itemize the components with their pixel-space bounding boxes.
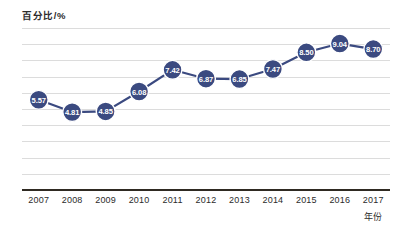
x-axis-tick-label: 2014 [262, 195, 283, 205]
x-axis-tick-label: 2017 [363, 195, 384, 205]
x-axis-tick-label: 2016 [329, 195, 350, 205]
line-chart: 百分比/% 2007200820092010201120122013201420… [0, 0, 406, 236]
data-point-marker[interactable] [96, 102, 115, 121]
x-axis-tick-label: 2011 [162, 195, 182, 205]
x-axis-tick-label: 2013 [229, 195, 250, 205]
data-point-marker[interactable] [163, 60, 182, 79]
data-point-marker[interactable] [29, 90, 48, 109]
data-point-marker[interactable] [130, 82, 149, 101]
data-point-marker[interactable] [364, 40, 383, 59]
x-axis-title: 年份 [364, 210, 382, 223]
x-axis-tick-label: 2007 [28, 195, 49, 205]
data-point-marker[interactable] [63, 103, 82, 122]
x-axis-tick-labels: 2007200820092010201120122013201420152016… [0, 195, 406, 211]
x-axis-tick-label: 2010 [129, 195, 150, 205]
data-point-marker[interactable] [330, 34, 349, 53]
data-point-marker[interactable] [197, 69, 216, 88]
x-axis-tick-label: 2008 [62, 195, 83, 205]
data-point-marker[interactable] [230, 70, 249, 89]
data-point-marker[interactable] [264, 60, 283, 79]
x-axis-tick-label: 2015 [296, 195, 317, 205]
data-point-marker[interactable] [297, 43, 316, 62]
x-axis-tick-label: 2012 [196, 195, 217, 205]
x-axis-tick-label: 2009 [95, 195, 116, 205]
